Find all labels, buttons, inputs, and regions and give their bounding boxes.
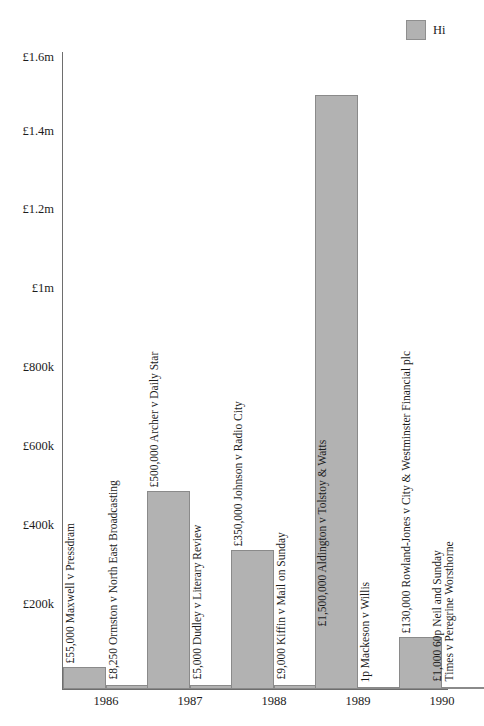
x-tick-label: 1986	[94, 695, 119, 708]
bar-label: £9,000 Kiffin v Mail on Sunday	[276, 532, 288, 682]
bar[interactable]	[274, 685, 316, 689]
bar-label: 1p Mackeson v Willis	[360, 581, 372, 685]
y-tick-label: £800k	[23, 361, 54, 374]
x-tick-label: 1989	[346, 695, 371, 708]
bar-label: £1,000 60p Neil and Sunday Times v Pereg…	[432, 531, 455, 684]
bar[interactable]	[147, 491, 190, 689]
y-tick-label: £400k	[23, 519, 54, 532]
bar[interactable]	[358, 687, 400, 689]
y-tick-label: £1.6m	[22, 51, 54, 64]
bar[interactable]	[106, 685, 148, 689]
y-tick-label: £600k	[23, 440, 54, 453]
bar-label: £1,500,000 Aldington v Tolstoy & Watts	[317, 439, 329, 629]
y-axis: £1.6m £1.4m £1.2m £1m £800k £600k £400k …	[0, 0, 62, 726]
bar-label: £55,000 Maxwell v Pressdram	[65, 522, 77, 666]
y-tick-label: £1.4m	[22, 125, 54, 138]
bar-label: £8,250 Ormston v North East Broadcasting	[108, 480, 120, 682]
x-tick-label: 1987	[178, 695, 203, 708]
plot-area: £55,000 Maxwell v Pressdram £8,250 Ormst…	[62, 0, 451, 726]
bar[interactable]	[442, 687, 484, 689]
bar[interactable]	[231, 550, 274, 689]
bar-label: £350,000 Johnson v Radio City	[233, 401, 245, 549]
bar-label: £130,000 Rowland-Jones v City & Westmins…	[401, 350, 413, 636]
bar[interactable]	[63, 667, 106, 689]
y-tick-label: £1.2m	[22, 203, 54, 216]
bar-label: £5,000 Dudley v Literary Review	[192, 524, 204, 682]
x-tick-label: 1988	[262, 695, 287, 708]
y-tick-label: £200k	[23, 598, 54, 611]
bar[interactable]	[190, 685, 232, 689]
y-tick-label: £1m	[32, 282, 54, 295]
bar-label: £500,000 Archer v Daily Star	[149, 351, 161, 490]
x-tick-label: 1990	[430, 695, 455, 708]
